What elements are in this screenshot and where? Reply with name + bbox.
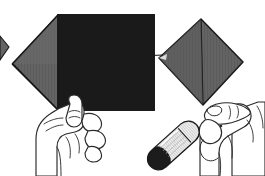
arrow-dashes xyxy=(124,56,139,57)
right-knuckle-dot xyxy=(220,125,223,128)
left-ring-finger xyxy=(85,130,105,149)
illustration-canvas xyxy=(0,0,265,176)
left-index-finger xyxy=(66,95,82,127)
origami-instruction-illustration: Origami folding step: pressing right dar… xyxy=(0,0,265,176)
right-index-fingertip xyxy=(207,106,222,116)
left-little-finger xyxy=(85,146,102,162)
right-hand-pressing-flap xyxy=(199,102,265,176)
